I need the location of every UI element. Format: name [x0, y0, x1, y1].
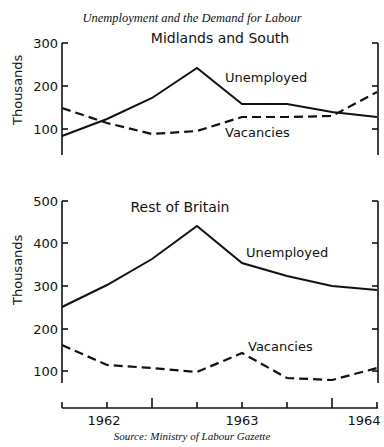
top-ytick-300: 300	[33, 36, 58, 51]
bottom-ytick-300: 300	[33, 279, 58, 294]
bottom-vacancies-label: Vacancies	[248, 339, 313, 354]
top-ylabel: Thousands	[10, 54, 25, 126]
top-ytick-200: 200	[33, 79, 58, 94]
figure-source: Source: Ministry of Labour Gazette	[0, 430, 384, 442]
bottom-ytick-200: 200	[33, 322, 58, 337]
bottom-ytick-400: 400	[33, 236, 58, 251]
top-unemployed-line	[62, 68, 377, 136]
bottom-panel-title: Rest of Britain	[131, 199, 230, 215]
bottom-ylabel: Thousands	[10, 234, 25, 306]
xtick-1962: 1962	[87, 413, 120, 428]
top-vacancies-line	[62, 92, 377, 134]
xtick-1963: 1963	[225, 413, 258, 428]
xtick-1964: 1964	[347, 413, 380, 428]
bottom-vacancies-line	[62, 345, 377, 380]
x-axis	[62, 398, 378, 408]
top-vacancies-label: Vacancies	[225, 125, 290, 140]
top-ytick-100: 100	[33, 122, 58, 137]
top-panel	[62, 43, 378, 155]
bottom-ytick-100: 100	[33, 364, 58, 379]
chart-canvas: Midlands and South 300 200 100 Thousands…	[0, 0, 384, 447]
bottom-unemployed-line	[62, 226, 377, 307]
bottom-panel	[62, 201, 378, 383]
top-panel-title: Midlands and South	[151, 30, 289, 46]
top-unemployed-label: Unemployed	[225, 70, 307, 85]
bottom-unemployed-label: Unemployed	[246, 245, 328, 260]
bottom-ytick-500: 500	[33, 194, 58, 209]
